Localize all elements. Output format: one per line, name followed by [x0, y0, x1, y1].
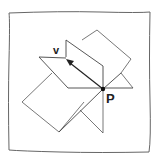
intersection-line-back: [103, 73, 121, 89]
plane-lower-right: [80, 89, 103, 133]
vector-v-shaft: [70, 63, 103, 89]
plane-slanted-back: [82, 30, 131, 73]
plane-slanted-front: [22, 73, 84, 132]
point-label: P: [106, 92, 115, 105]
vector-label: v: [53, 45, 59, 56]
diagram-canvas: [0, 0, 155, 160]
frame-border: [9, 12, 151, 153]
intersection-line-front: [59, 89, 103, 132]
point-p-dot: [101, 87, 105, 91]
plane-horizontal: [39, 57, 133, 88]
plane-slanted-lower-back: [121, 73, 133, 88]
